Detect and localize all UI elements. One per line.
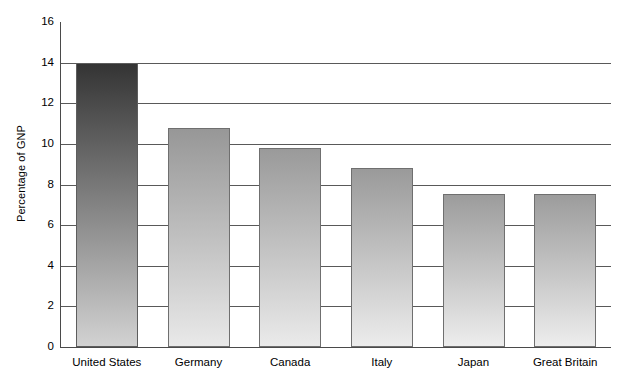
x-axis-tick-label: Germany xyxy=(175,352,222,372)
bar xyxy=(534,194,596,347)
y-axis-tick-labels: 0246810121416 xyxy=(26,0,54,383)
bars-layer xyxy=(61,22,611,347)
y-axis-tick-label: 10 xyxy=(26,138,54,150)
bar xyxy=(168,128,230,347)
x-axis-tick-labels: United StatesGermanyCanadaItalyJapanGrea… xyxy=(61,352,611,374)
x-axis-tick-label: Japan xyxy=(458,352,489,372)
y-axis-tick-label: 2 xyxy=(26,301,54,313)
y-axis-tick-label: 6 xyxy=(26,219,54,231)
bar xyxy=(351,168,413,347)
x-axis-tick-label: Italy xyxy=(371,352,392,372)
y-axis-tick-label: 4 xyxy=(26,260,54,272)
x-axis-line xyxy=(61,347,611,348)
bar xyxy=(259,148,321,347)
y-axis-tick-label: 12 xyxy=(26,98,54,110)
y-axis-tick-label: 16 xyxy=(26,16,54,28)
bar-chart: Percentage of GNP 0246810121416 United S… xyxy=(0,0,624,383)
bar xyxy=(443,194,505,347)
x-axis-tick-label: United States xyxy=(72,352,141,372)
x-axis-tick-label: Canada xyxy=(270,352,310,372)
y-axis-tick-label: 0 xyxy=(26,341,54,353)
bar xyxy=(76,63,138,347)
x-axis-tick-label: Great Britain xyxy=(533,352,598,372)
y-axis-tick-label: 14 xyxy=(26,57,54,69)
y-axis-tick-label: 8 xyxy=(26,179,54,191)
